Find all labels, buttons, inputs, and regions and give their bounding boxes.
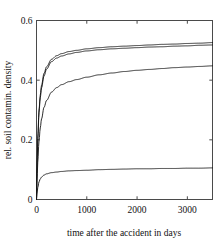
x-tick-label: 1000	[77, 205, 96, 215]
data-series-group	[37, 43, 213, 200]
data-series-curve-3-middle	[37, 66, 213, 200]
x-tick-label: 2000	[128, 205, 147, 215]
y-tick-label: 0	[28, 195, 33, 205]
data-series-curve-4-lower	[37, 168, 213, 200]
tick-marks	[37, 21, 213, 200]
y-axis-title: rel. soil contamin. density	[3, 61, 13, 160]
y-tick-label: 0.2	[21, 135, 33, 145]
data-series-curve-2-upper-inner	[37, 45, 213, 200]
axis-frame	[37, 21, 213, 200]
x-axis-title: time after the accident in days	[67, 228, 182, 238]
x-tick-label: 3000	[178, 205, 197, 215]
chart-plot-area: 0100020003000 00.20.40.6 time after the …	[0, 0, 223, 247]
chart-figure: 0100020003000 00.20.40.6 time after the …	[0, 0, 223, 247]
y-tick-label: 0.4	[21, 76, 33, 86]
data-series-curve-1-upper	[37, 43, 213, 200]
x-tick-label: 0	[34, 205, 39, 215]
y-tick-labels: 00.20.40.6	[21, 16, 33, 205]
y-tick-label: 0.6	[21, 16, 33, 26]
x-tick-labels: 0100020003000	[34, 205, 197, 215]
